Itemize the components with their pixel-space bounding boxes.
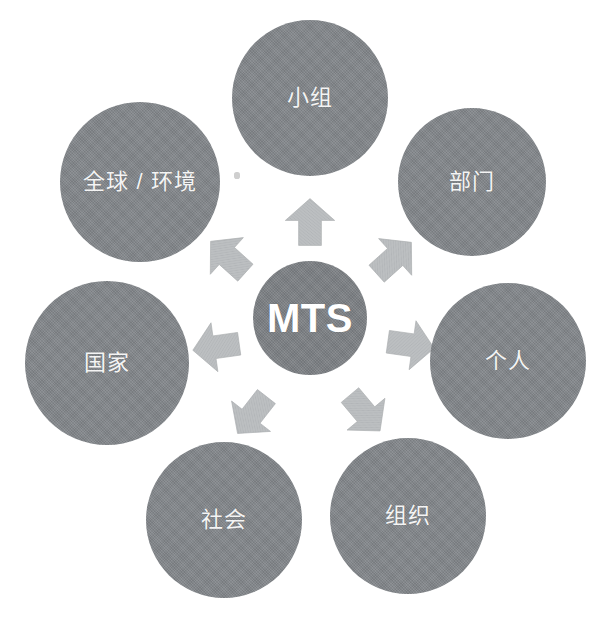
node-country-label: 国家 bbox=[84, 351, 130, 375]
diagram-canvas: 小组 部门 个人 组织 社会 国家 全球 / 环境 MTS bbox=[0, 0, 614, 617]
arrow-to-global bbox=[194, 223, 262, 291]
hub-node-label: MTS bbox=[267, 296, 353, 340]
node-team-label: 小组 bbox=[287, 86, 333, 110]
arrow-to-team bbox=[285, 199, 334, 246]
arrow-to-society bbox=[218, 381, 286, 448]
node-department[interactable]: 部门 bbox=[398, 108, 546, 256]
node-department-label: 部门 bbox=[449, 170, 495, 194]
node-individual[interactable]: 个人 bbox=[430, 283, 586, 439]
node-country[interactable]: 国家 bbox=[25, 281, 189, 445]
arrow-to-organization bbox=[331, 379, 399, 447]
node-society-label: 社会 bbox=[201, 508, 247, 532]
node-organization[interactable]: 组织 bbox=[330, 438, 486, 594]
node-global-environment-label: 全球 / 环境 bbox=[83, 170, 196, 194]
scan-artifact bbox=[234, 172, 240, 179]
arrow-to-department bbox=[360, 224, 428, 292]
node-society[interactable]: 社会 bbox=[146, 442, 302, 598]
arrow-to-country bbox=[189, 319, 242, 374]
node-team[interactable]: 小组 bbox=[232, 20, 388, 176]
node-individual-label: 个人 bbox=[485, 349, 531, 373]
hub-node-mts[interactable]: MTS bbox=[253, 261, 367, 375]
node-organization-label: 组织 bbox=[385, 504, 431, 528]
node-global-environment[interactable]: 全球 / 环境 bbox=[60, 102, 220, 262]
